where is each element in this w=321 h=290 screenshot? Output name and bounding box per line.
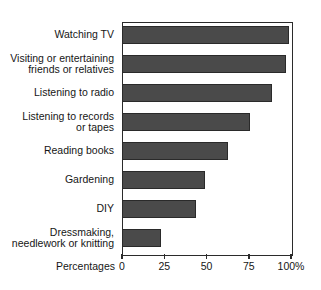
category-label-line: Gardening: [65, 174, 114, 186]
bar-listening-records: [122, 113, 250, 131]
x-axis: 0255075100%: [122, 254, 291, 284]
x-axis-tick-label: 25: [158, 260, 170, 272]
bar-watching-tv: [122, 26, 289, 44]
x-axis-tick: [206, 254, 208, 259]
bar-chart: Watching TV Visiting or entertaining fri…: [0, 0, 321, 290]
x-axis-tick-label: 75: [243, 260, 255, 272]
category-label-dressmaking: Dressmaking, needlework or knitting: [0, 225, 114, 251]
category-label-gardening: Gardening: [0, 167, 114, 193]
category-label-diy: DIY: [0, 196, 114, 222]
category-label-listening-radio: Listening to radio: [0, 80, 114, 106]
category-label-visiting-entertaining: Visiting or entertaining friends or rela…: [0, 51, 114, 77]
category-axis: Watching TV Visiting or entertaining fri…: [0, 22, 118, 254]
bar-dressmaking: [122, 229, 161, 247]
category-label-line: needlework or knitting: [12, 238, 114, 250]
x-axis-tick: [164, 254, 166, 259]
category-label-watching-tv: Watching TV: [0, 22, 114, 48]
bar-listening-radio: [122, 84, 272, 102]
category-label-line: Listening to radio: [34, 87, 114, 99]
x-axis-tick: [121, 254, 123, 259]
x-axis-tick-label: 0: [119, 260, 125, 272]
x-axis-tick-label: 100%: [278, 260, 305, 272]
category-label-listening-records: Listening to records or tapes: [0, 109, 114, 135]
bar-reading-books: [122, 142, 228, 160]
x-axis-tick: [248, 254, 250, 259]
x-axis-tick-label: 50: [201, 260, 213, 272]
bars-layer: [122, 22, 291, 254]
category-label-line: or tapes: [76, 122, 114, 134]
category-label-line: friends or relatives: [28, 64, 114, 76]
category-label-line: Reading books: [44, 145, 114, 157]
category-label-reading-books: Reading books: [0, 138, 114, 164]
category-label-line: Watching TV: [54, 29, 114, 41]
bar-visiting-entertaining: [122, 55, 286, 73]
bar-gardening: [122, 171, 205, 189]
category-label-line: DIY: [96, 203, 114, 215]
x-axis-title: Percentages: [56, 260, 115, 272]
x-axis-tick: [290, 254, 292, 259]
bar-diy: [122, 200, 196, 218]
